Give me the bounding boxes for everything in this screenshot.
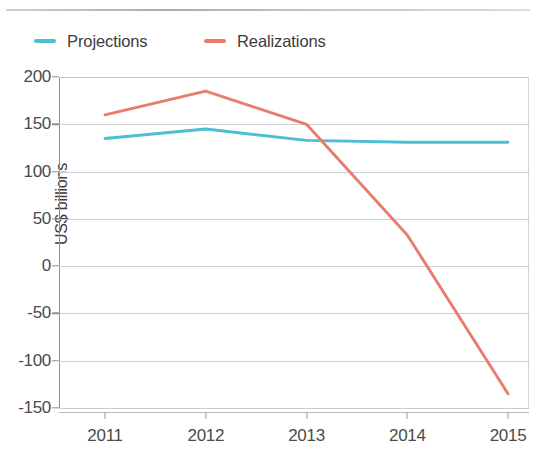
chart-figure: Projections Realizations US$ billions 20… bbox=[0, 0, 536, 462]
x-tick-mark-2014 bbox=[407, 412, 408, 419]
y-tick-label-100: 100 bbox=[24, 162, 51, 182]
y-axis-labels: 200150100500-50-100-150 bbox=[0, 77, 55, 408]
legend-swatch-realizations bbox=[204, 39, 226, 43]
legend-label-realizations: Realizations bbox=[237, 32, 326, 51]
y-tick-mark--50 bbox=[52, 313, 59, 314]
y-tick-mark--100 bbox=[52, 360, 59, 361]
series-lines bbox=[59, 77, 529, 408]
y-tick-label-0: 0 bbox=[42, 256, 51, 276]
y-tick-label-200: 200 bbox=[24, 67, 51, 87]
y-tick-label-150: 150 bbox=[24, 114, 51, 134]
y-tick-mark-0 bbox=[52, 265, 59, 266]
y-tick-mark-200 bbox=[52, 76, 59, 77]
page-top-rule bbox=[6, 9, 530, 11]
plot-area bbox=[59, 77, 529, 408]
y-tick-label--50: -50 bbox=[27, 303, 51, 323]
x-tick-mark-2013 bbox=[306, 412, 307, 419]
gridline--150 bbox=[59, 408, 529, 409]
x-tick-label-2014: 2014 bbox=[389, 426, 426, 446]
y-tick-mark-100 bbox=[52, 171, 59, 172]
y-tick-mark-50 bbox=[52, 218, 59, 219]
x-axis-labels: 20112012201320142015 bbox=[59, 412, 529, 452]
chart-legend: Projections Realizations bbox=[34, 28, 494, 54]
x-tick-mark-2011 bbox=[104, 412, 105, 419]
x-tick-mark-2012 bbox=[205, 412, 206, 419]
y-tick-mark--150 bbox=[52, 407, 59, 408]
x-tick-label-2013: 2013 bbox=[288, 426, 325, 446]
series-line-projections bbox=[105, 129, 508, 142]
x-tick-mark-2015 bbox=[507, 412, 508, 419]
legend-item-realizations[interactable]: Realizations bbox=[204, 28, 326, 54]
y-tick-label--100: -100 bbox=[18, 351, 51, 371]
x-tick-label-2012: 2012 bbox=[187, 426, 224, 446]
x-tick-label-2011: 2011 bbox=[87, 426, 122, 446]
legend-swatch-projections bbox=[34, 39, 56, 43]
y-tick-mark-150 bbox=[52, 124, 59, 125]
legend-label-projections: Projections bbox=[67, 32, 148, 51]
y-tick-label-50: 50 bbox=[33, 209, 51, 229]
y-tick-label--150: -150 bbox=[18, 398, 51, 418]
legend-item-projections[interactable]: Projections bbox=[34, 28, 148, 54]
series-line-realizations bbox=[105, 91, 508, 394]
x-tick-label-2015: 2015 bbox=[490, 426, 527, 446]
